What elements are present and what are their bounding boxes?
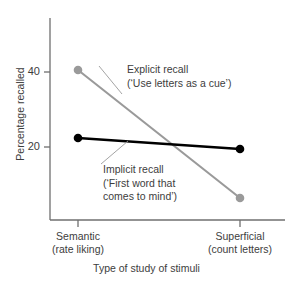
x-axis-title: Type of study of stimuli: [0, 262, 293, 274]
x-category-main-semantic: Semantic: [28, 230, 128, 243]
data-point-implicit-semantic: [74, 134, 83, 143]
annotation-explicit-recall: Explicit recall (‘Use letters as a cue’): [127, 63, 231, 90]
x-category-label-superficial: Superficial (count letters): [190, 230, 290, 256]
y-axis-title: Percentage recalled: [14, 54, 26, 174]
x-category-sub-superficial: (count letters): [190, 243, 290, 256]
annotation-explicit-line2: (‘Use letters as a cue’): [127, 77, 231, 91]
x-category-sub-semantic: (rate liking): [28, 243, 128, 256]
x-category-main-superficial: Superficial: [190, 230, 290, 243]
data-point-explicit-superficial: [236, 194, 245, 203]
data-point-explicit-semantic: [74, 66, 83, 75]
annotation-implicit-line3: comes to mind’): [103, 190, 177, 204]
annotation-implicit-recall: Implicit recall (‘First word that comes …: [103, 163, 177, 204]
x-category-label-semantic: Semantic (rate liking): [28, 230, 128, 256]
chart-figure: 40 20 Percentage recalled Semantic (rate…: [0, 0, 293, 281]
annotation-explicit-line1: Explicit recall: [127, 63, 231, 77]
annotation-implicit-line2: (‘First word that: [103, 177, 177, 191]
leader-line-implicit: [101, 141, 128, 164]
data-point-implicit-superficial: [236, 145, 245, 154]
annotation-implicit-line1: Implicit recall: [103, 163, 177, 177]
series-line-implicit-recall: [78, 138, 240, 149]
